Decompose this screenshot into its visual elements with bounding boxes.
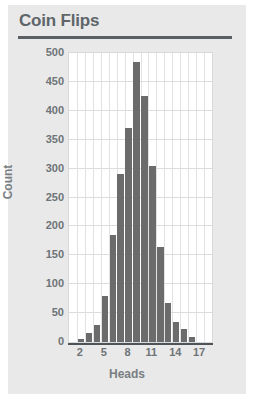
y-axis-tick-label: 250 [12, 191, 64, 203]
bar [165, 303, 171, 342]
vertical-gridline [93, 53, 94, 342]
bar [110, 235, 116, 342]
vertical-gridline [188, 53, 189, 342]
bar [117, 174, 123, 342]
y-axis-tick-label: 300 [12, 162, 64, 174]
bar [157, 247, 163, 342]
y-axis-tick-label: 100 [12, 277, 64, 289]
y-axis-tick-label: 0 [12, 335, 64, 347]
vertical-gridline [164, 53, 165, 342]
bar [173, 322, 179, 342]
bar [133, 62, 139, 342]
vertical-gridline [77, 53, 78, 342]
x-axis-tick-label: 11 [146, 346, 158, 358]
y-axis-tick-label: 200 [12, 219, 64, 231]
chart-plot-wrapper: 050100150200250300350400450500 Count 258… [8, 5, 246, 394]
bar [86, 333, 92, 342]
x-axis-label: Heads [8, 367, 246, 381]
y-axis-tick-label: 450 [12, 75, 64, 87]
horizontal-gridline [69, 52, 212, 53]
bar [189, 337, 195, 342]
bar [181, 329, 187, 342]
screenshot-root: Coin Flips 05010015020025030035040045050… [0, 0, 254, 408]
vertical-gridline [85, 53, 86, 342]
bar [102, 296, 108, 342]
bar [149, 166, 155, 342]
y-axis-ticks: 050100150200250300350400450500 [8, 52, 64, 343]
y-axis-tick-label: 50 [12, 306, 64, 318]
x-axis-tick-label: 17 [193, 346, 205, 358]
y-axis-tick-label: 400 [12, 104, 64, 116]
y-axis-tick-label: 350 [12, 133, 64, 145]
x-axis-tick-label: 8 [125, 346, 131, 358]
x-axis-tick-label: 2 [77, 346, 83, 358]
plot-area [68, 52, 213, 343]
x-axis-line [68, 343, 213, 345]
x-axis-tick-label: 14 [169, 346, 181, 358]
chart-card: Coin Flips 05010015020025030035040045050… [8, 5, 246, 394]
x-axis-ticks: 258111417 [68, 346, 213, 364]
x-axis-tick-label: 5 [101, 346, 107, 358]
vertical-gridline [172, 53, 173, 342]
y-axis-tick-label: 150 [12, 248, 64, 260]
y-axis-tick-label: 500 [12, 46, 64, 58]
vertical-gridline [196, 53, 197, 342]
horizontal-gridline [69, 81, 212, 82]
vertical-gridline [180, 53, 181, 342]
y-axis-label: Count [1, 165, 15, 200]
bar [78, 339, 84, 342]
bar [94, 325, 100, 342]
bar [141, 96, 147, 342]
bar [125, 128, 131, 342]
vertical-gridline [204, 53, 205, 342]
